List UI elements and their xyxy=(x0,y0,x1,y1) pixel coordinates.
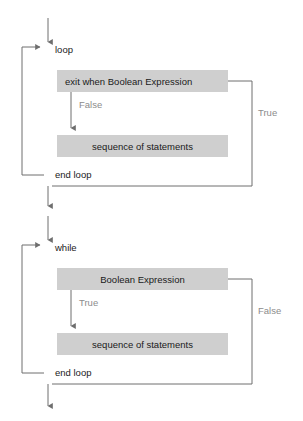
branch-label-false-loop: False xyxy=(79,99,102,110)
flowchart-connectors xyxy=(0,0,303,421)
loopback-path-loop xyxy=(22,47,44,175)
branch-label-true-loop: True xyxy=(258,107,277,118)
body-box-sequence-of-statements-loop: sequence of statements xyxy=(57,135,228,157)
loopback-path-while xyxy=(22,245,44,373)
end-loop-keyword-label-while: end loop xyxy=(55,367,91,378)
branch-label-false-while: False xyxy=(258,305,281,316)
end-loop-keyword-label-loop: end loop xyxy=(55,169,91,180)
body-box-sequence-of-statements-while: sequence of statements xyxy=(57,333,228,355)
branch-label-true-while: True xyxy=(79,297,98,308)
loop-keyword-label: loop xyxy=(55,44,73,55)
while-keyword-label: while xyxy=(55,242,77,253)
flowchart-canvas: loop exit when Boolean Expression False … xyxy=(0,0,303,421)
condition-box-exit-when: exit when Boolean Expression xyxy=(57,70,228,92)
condition-box-boolean-expression: Boolean Expression xyxy=(57,268,228,290)
